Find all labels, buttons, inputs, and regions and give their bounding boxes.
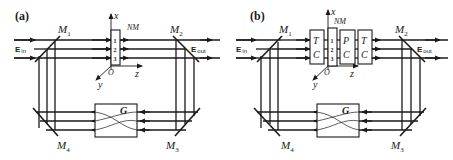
label-m3: M3 [165,139,179,154]
channel-3-b: 3 [331,56,334,62]
component-tc-2-bottom: C [361,49,368,60]
optical-setup-figure: (a) [0,0,453,160]
axis-y-label-a: y [97,79,103,90]
channel-1-b: 1 [331,38,334,44]
axis-z-label-b: z [349,68,354,79]
component-pc-bottom: C [343,49,350,60]
label-e-in: Ein [15,45,26,54]
nm-label-a: NM [126,23,140,32]
label-m4: M4 [56,139,70,154]
panel-b: (b) [236,6,448,154]
g-label-a: G [120,105,128,116]
axis-x-label-b: x [330,6,336,17]
origin-label-b: O [324,68,330,77]
panel-label-a: (a) [15,9,29,23]
component-pc-top: P [342,35,349,46]
label-e-out: Eout [191,45,206,54]
nm-label-b: NM [333,17,347,26]
origin-label-a: O [108,68,114,77]
label-b-m4: M4 [280,139,294,154]
label-b-e-out: Eout [417,45,432,54]
channel-1-a: 1 [114,38,117,44]
label-b-m2: M2 [394,23,408,38]
channel-2-b: 2 [331,47,334,53]
label-b-m3: M3 [390,139,404,154]
panel-a: (a) [14,9,220,154]
axis-x-label-a: x [113,10,119,21]
component-tc-1-bottom: C [313,49,320,60]
channel-3-a: 3 [114,56,117,62]
label-m1: M1 [57,23,71,38]
g-label-b: G [342,105,350,116]
axis-y-label-b: y [312,79,318,90]
panel-label-b: (b) [250,9,265,23]
label-b-m1: M1 [278,23,292,38]
label-b-e-in: Ein [236,45,247,54]
label-m2: M2 [169,23,183,38]
axis-z-label-a: z [134,68,139,79]
channel-2-a: 2 [114,47,117,53]
